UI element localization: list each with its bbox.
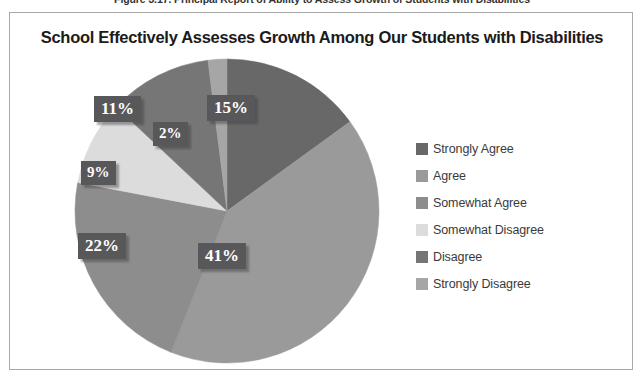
legend-swatch-icon [416,251,428,263]
figure-caption: Figure 3.17. Principal Report of Ability… [0,0,644,7]
chart-title: School Effectively Assesses Growth Among… [10,28,634,47]
legend-swatch-icon [416,224,428,236]
legend-item-somewhat-agree[interactable]: Somewhat Agree [416,189,626,216]
pie-label-agree: 41% [198,243,246,269]
legend-item-label: Agree [433,169,466,183]
legend-item-strongly-disagree[interactable]: Strongly Disagree [416,270,626,297]
pie-chart: 15% 41% 22% 9% 11% 2% [50,55,395,367]
legend-item-somewhat-disagree[interactable]: Somewhat Disagree [416,216,626,243]
pie-label-somewhat-disagree: 9% [81,161,116,185]
legend: Strongly Agree Agree Somewhat Agree Some… [416,135,626,297]
chart-frame: School Effectively Assesses Growth Among… [9,12,633,370]
legend-item-label: Strongly Agree [433,142,514,156]
legend-item-agree[interactable]: Agree [416,162,626,189]
legend-item-label: Somewhat Agree [433,196,527,210]
pie-label-strongly-disagree: 2% [153,122,188,146]
pie-label-disagree: 11% [94,96,141,122]
legend-item-label: Disagree [433,250,482,264]
legend-item-label: Strongly Disagree [433,277,531,291]
legend-swatch-icon [416,278,428,290]
pie-label-strongly-agree: 15% [207,95,255,121]
legend-item-strongly-agree[interactable]: Strongly Agree [416,135,626,162]
legend-swatch-icon [416,143,428,155]
legend-swatch-icon [416,197,428,209]
legend-item-disagree[interactable]: Disagree [416,243,626,270]
legend-swatch-icon [416,170,428,182]
pie-label-somewhat-agree: 22% [78,233,126,259]
legend-item-label: Somewhat Disagree [433,223,544,237]
